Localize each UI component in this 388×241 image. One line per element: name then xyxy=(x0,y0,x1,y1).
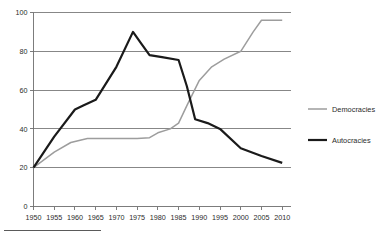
x-tick-label: 1960 xyxy=(67,213,83,222)
data-series xyxy=(34,20,283,167)
legend-label: Autocracies xyxy=(332,136,371,145)
x-tick-label: 1985 xyxy=(171,213,187,222)
x-tick-label: 1990 xyxy=(191,213,207,222)
x-tick-label: 1965 xyxy=(88,213,104,222)
x-tick-label: 2000 xyxy=(233,213,249,222)
x-tick-label: 1975 xyxy=(129,213,145,222)
chart-legend: DemocraciesAutocracies xyxy=(308,105,375,145)
gridlines xyxy=(34,13,291,168)
x-tick-label: 2005 xyxy=(253,213,269,222)
line-chart: 020406080100 195019551960196519701975198… xyxy=(0,0,388,241)
y-tick-label: 20 xyxy=(20,163,28,172)
y-axis-tick-labels: 020406080100 xyxy=(16,8,28,211)
y-tick-marks xyxy=(30,13,34,207)
x-tick-label: 1955 xyxy=(46,213,62,222)
chart-figure: 020406080100 195019551960196519701975198… xyxy=(0,0,388,241)
x-tick-marks xyxy=(34,207,283,211)
x-tick-label: 2010 xyxy=(274,213,290,222)
legend-item-democracies: Democracies xyxy=(308,105,375,114)
y-tick-label: 100 xyxy=(16,8,28,17)
x-tick-label: 1980 xyxy=(150,213,166,222)
y-tick-label: 40 xyxy=(20,125,28,134)
y-tick-label: 60 xyxy=(20,86,28,95)
y-tick-label: 80 xyxy=(20,47,28,56)
y-tick-label: 0 xyxy=(24,202,28,211)
axes xyxy=(34,13,291,207)
x-axis-tick-labels: 1950195519601965197019751980198519901995… xyxy=(26,213,291,222)
legend-label: Democracies xyxy=(332,105,375,114)
x-tick-label: 1950 xyxy=(26,213,42,222)
series-line-autocracies xyxy=(34,32,283,168)
x-tick-label: 1995 xyxy=(212,213,228,222)
series-line-democracies xyxy=(34,20,283,167)
legend-item-autocracies: Autocracies xyxy=(308,136,371,145)
x-tick-label: 1970 xyxy=(108,213,124,222)
